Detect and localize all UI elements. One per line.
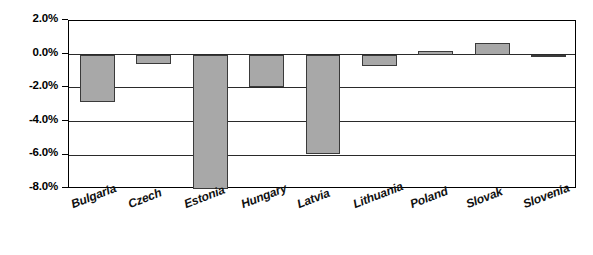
x-axis-category-label: Poland (408, 184, 450, 211)
x-axis-category-label: Slovak (464, 184, 505, 211)
x-axis-category-label: Estonia (182, 183, 227, 211)
y-axis-tick-mark (62, 154, 68, 155)
bar-chart: 2.0%0.0%-2.0%-4.0%-6.0%-8.0% BulgariaCze… (0, 0, 593, 255)
x-axis-category-label: Slovenia (521, 181, 571, 211)
x-axis-category-label: Hungary (239, 181, 289, 211)
x-axis-labels: BulgariaCzechEstoniaHungaryLatviaLithuan… (0, 0, 593, 255)
x-axis-category-label: Bulgaria (69, 181, 118, 211)
y-axis-tick-mark (62, 86, 68, 87)
y-axis-tick-mark (62, 19, 68, 20)
y-axis-tick-mark (62, 53, 68, 54)
x-axis-category-label: Latvia (295, 186, 332, 211)
x-axis-category-label: Lithuania (351, 179, 405, 211)
y-axis-tick-mark (62, 187, 68, 188)
y-axis-tick-mark (62, 120, 68, 121)
x-axis-category-label: Czech (126, 186, 164, 212)
